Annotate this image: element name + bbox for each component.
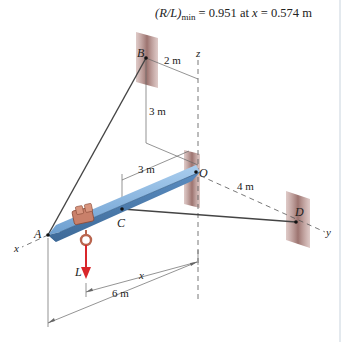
dim-x-arrow-left [86,288,93,292]
point-b [144,56,148,60]
wall-b [136,32,158,88]
point-d [294,220,298,224]
point-a [46,233,50,237]
force-arrow-head [81,267,91,279]
force-label: L [74,265,82,279]
z-axis-label: z [195,47,201,59]
dim-od: 4 m [237,180,254,192]
result-text: (R/L)min = 0.951 at x = 0.574 m [155,6,312,22]
dim-x-label: x [138,269,144,281]
dim-span-arrow-left [48,318,55,323]
diagram-canvas: (R/L)min = 0.951 at x = 0.574 m z y x 2 … [0,0,356,342]
label-b: B [137,46,145,60]
point-c [120,207,124,211]
y-axis-label: y [325,226,331,238]
dim-bh: 3 m [149,105,166,117]
label-o: O [199,166,208,180]
label-c: C [117,216,126,230]
dim-bz: 2 m [164,54,181,66]
label-a: A [33,227,42,241]
label-d: D [294,205,304,219]
beam-side [48,172,200,242]
wall-d [286,191,310,248]
dim-oc: 3 m [138,163,155,175]
dim-span-label: 6 m [112,287,129,299]
x-axis-label: x [13,242,19,254]
point-o [194,170,198,174]
cable-cd [122,209,296,222]
